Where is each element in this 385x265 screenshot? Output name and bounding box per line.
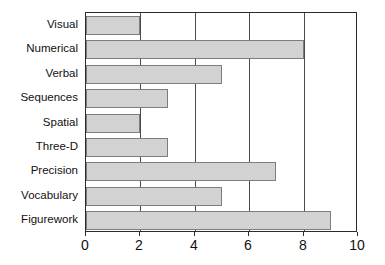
axis-tick-label: 8 xyxy=(299,237,307,253)
bar-series xyxy=(86,13,356,231)
axis-tick-label: 6 xyxy=(244,237,252,253)
bar xyxy=(86,16,140,35)
category-label: Three-D xyxy=(36,137,78,156)
bar xyxy=(86,211,331,230)
axis-tick-label: 4 xyxy=(190,237,198,253)
bar xyxy=(86,65,222,84)
category-label: Verbal xyxy=(45,64,78,83)
bar xyxy=(86,89,168,108)
bar xyxy=(86,138,168,157)
plot-area xyxy=(85,12,357,232)
value-axis: 0246810 xyxy=(85,232,357,262)
axis-tick xyxy=(139,232,140,236)
bar xyxy=(86,187,222,206)
axis-tick xyxy=(357,232,358,236)
bar-chart: VisualNumericalVerbalSequencesSpatialThr… xyxy=(0,0,385,265)
bar xyxy=(86,162,276,181)
bar xyxy=(86,40,304,59)
category-label: Numerical xyxy=(26,39,78,58)
axis-tick-label: 0 xyxy=(81,237,89,253)
axis-tick-label: 10 xyxy=(349,237,365,253)
category-label: Spatial xyxy=(43,113,78,132)
category-label: Figurework xyxy=(21,210,78,229)
axis-tick xyxy=(248,232,249,236)
category-label: Visual xyxy=(47,15,78,34)
axis-tick xyxy=(303,232,304,236)
bar xyxy=(86,114,140,133)
axis-tick xyxy=(85,232,86,236)
axis-tick-label: 2 xyxy=(135,237,143,253)
category-label: Sequences xyxy=(20,88,78,107)
category-axis-labels: VisualNumericalVerbalSequencesSpatialThr… xyxy=(0,12,82,232)
axis-tick xyxy=(194,232,195,236)
category-label: Precision xyxy=(31,161,78,180)
category-label: Vocabulary xyxy=(21,186,78,205)
